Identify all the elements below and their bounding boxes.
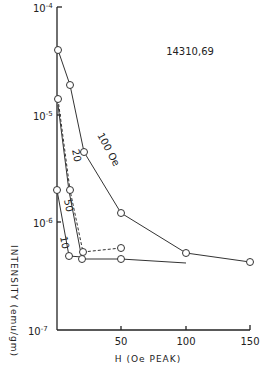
axes	[57, 7, 250, 330]
x-axis-title: H (Oe PEAK)	[115, 354, 181, 364]
curve-label-10: 10	[58, 235, 71, 250]
intensity-vs-field-chart: 10-4 10-5 10-6 10-7 50 100 150 H (Oe PEA…	[0, 0, 266, 369]
y-tick-labels: 10-4 10-5 10-6 10-7	[28, 2, 53, 337]
y-label-1e-4: 10-4	[33, 2, 53, 14]
sample-id-label: 14310,69	[166, 46, 214, 57]
curve-label-20: 20	[70, 148, 83, 163]
y-label-1e-7: 10-7	[28, 325, 48, 337]
curve-label-100-oe: 100 Oe	[95, 131, 122, 168]
point-100oe-10	[67, 82, 74, 89]
x-tick-labels: 50 100 150	[115, 336, 260, 347]
series-50-line	[58, 105, 186, 263]
point-50-20	[79, 256, 86, 263]
point-20-50	[118, 245, 125, 252]
point-20-20	[80, 249, 87, 256]
point-100oe-100	[183, 250, 190, 257]
point-100oe-150	[247, 259, 254, 266]
y-axis-title: INTENSITY (emu/gm)	[9, 245, 19, 357]
point-50-50	[118, 256, 125, 263]
point-20-10	[67, 187, 74, 194]
x-label-150: 150	[240, 336, 259, 347]
x-label-50: 50	[115, 336, 128, 347]
point-10-10	[66, 253, 73, 260]
curve-label-50: 50	[62, 198, 75, 213]
point-10-1	[54, 187, 61, 194]
x-label-100: 100	[176, 336, 195, 347]
series-100-oe-line	[58, 50, 250, 262]
point-20-1	[55, 96, 62, 103]
point-100oe-50	[118, 210, 125, 217]
y-label-1e-5: 10-5	[33, 110, 53, 122]
y-label-1e-6: 10-6	[33, 217, 53, 229]
point-100oe-1	[55, 47, 62, 54]
